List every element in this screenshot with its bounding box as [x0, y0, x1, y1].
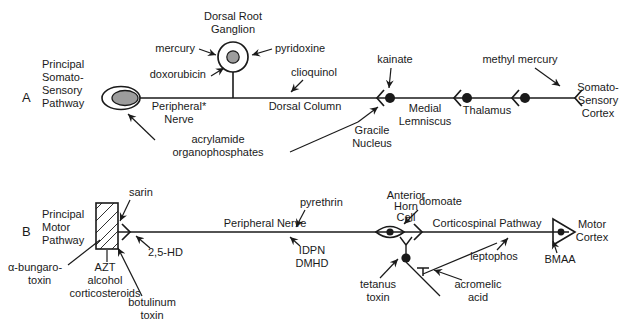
thalamus-label: Thalamus [463, 104, 512, 116]
2-5-hd-label: 2,5-HD [148, 246, 183, 258]
inhibitory-interneuron-icon [400, 237, 440, 296]
dorsal-column-label: Dorsal Column [269, 100, 342, 112]
panel-b-letter: B [22, 224, 31, 239]
medial-lemniscus-label-line2: Lemniscus [399, 115, 452, 127]
doxorubicin-arrow [211, 68, 224, 76]
dmhd-label: DMHD [296, 257, 329, 269]
motor-cortex-label-line1: Motor [578, 218, 606, 230]
a-path-line1: Principal [42, 58, 84, 70]
a-path-line2: Somato- [42, 71, 84, 83]
panel-a: A Principal Somato- Sensory Pathway Dors… [22, 10, 619, 158]
idpn-dmhd-arrow [290, 237, 300, 246]
domoate-label: domoate [419, 195, 462, 207]
figure-svg: A Principal Somato- Sensory Pathway Dors… [0, 0, 621, 330]
organophosphates-arrow [358, 107, 378, 122]
doxorubicin-label: doxorubicin [150, 68, 206, 80]
alpha-bungarotoxin-label-line2: toxin [28, 274, 51, 286]
kainate-label: kainate [377, 53, 412, 65]
b-path-line3: Pathway [42, 234, 85, 246]
peripheral-nerve-a-label-line2: Nerve [164, 113, 193, 125]
azt-label: AZT [95, 261, 116, 273]
bmaa-label: BMAA [544, 253, 576, 265]
methyl-mercury-label: methyl mercury [482, 53, 558, 65]
acrylamide-arrow [128, 114, 155, 140]
methyl-mercury-arrow [535, 68, 560, 86]
botulinum-toxin-label-line2: toxin [140, 309, 163, 321]
a-path-line4: Pathway [42, 97, 85, 109]
kainate-arrow [389, 68, 391, 88]
b-path-line1: Principal [42, 208, 84, 220]
2-5-hd-arrow [136, 236, 150, 248]
idpn-label: IDPN [299, 244, 325, 256]
tetanus-toxin-arrow [380, 259, 398, 278]
organophosphates-label: organophosphates [172, 146, 264, 158]
drg-label-line2: Ganglion [211, 23, 255, 35]
acromelic-acid-label-line2: acid [468, 291, 488, 303]
neuropathway-toxicant-figure: A Principal Somato- Sensory Pathway Dors… [0, 0, 621, 330]
leptophos-label: leptophos [470, 250, 518, 262]
gracile-nucleus-label-line1: Gracile [355, 124, 390, 136]
sarin-label: sarin [129, 186, 153, 198]
motor-cortex-label-line2: Cortex [576, 231, 609, 243]
clioquinol-label: clioquinol [291, 66, 337, 78]
peripheral-nerve-b-label: Peripheral Nerve [224, 217, 307, 229]
pyrethrin-label: pyrethrin [300, 196, 343, 208]
muscle-icon [96, 203, 118, 249]
panel-b-pathway-label: Principal Motor Pathway [42, 208, 85, 246]
somatosensory-cortex-label-line3: Cortex [582, 107, 615, 119]
corticospinal-pathway-label: Corticospinal Pathway [433, 217, 542, 229]
mercury-arrow [199, 49, 216, 55]
acromelic-acid-arrow [434, 270, 462, 280]
tetanus-toxin-label-line2: toxin [366, 291, 389, 303]
drg-label-line1: Dorsal Root [204, 10, 262, 22]
panel-a-pathway-label: Principal Somato- Sensory Pathway [42, 58, 85, 109]
alpha-bungarotoxin-label-line1: α-bungaro- [8, 261, 62, 273]
organophosphates-connector [290, 122, 358, 152]
dorsal-root-ganglion-icon [218, 42, 248, 98]
somatosensory-cortex-label-line2: Sensory [578, 94, 619, 106]
somatosensory-cortex-label-line1: Somato- [577, 81, 619, 93]
pyridoxine-arrow [252, 49, 272, 55]
b-path-line2: Motor [42, 221, 70, 233]
medial-lemniscus-label-line1: Medial [409, 102, 441, 114]
panel-b: B Principal Motor Pathway [8, 186, 609, 321]
a-path-line3: Sensory [42, 84, 83, 96]
tetanus-toxin-label-line1: tetanus [360, 278, 397, 290]
clioquinol-arrow [291, 80, 303, 92]
mercury-label: mercury [155, 42, 195, 54]
sarin-arrow [120, 200, 130, 221]
acrylamide-label: acrylamide [191, 133, 244, 145]
leptophos-arrow [497, 238, 508, 250]
pyridoxine-label: pyridoxine [275, 42, 325, 54]
alcohol-label: alcohol [88, 274, 123, 286]
gracile-nucleus-label-line2: Nucleus [352, 137, 392, 149]
peripheral-nerve-a-label-line1: Peripheral* [152, 100, 207, 112]
botulinum-toxin-label-line1: botulinum [128, 296, 176, 308]
peripheral-receptor-icon [102, 87, 140, 110]
panel-a-letter: A [22, 90, 31, 105]
